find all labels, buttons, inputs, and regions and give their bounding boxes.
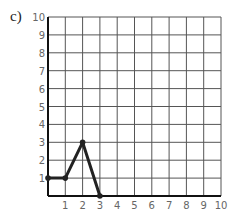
- x-tick-label: 4: [114, 200, 120, 211]
- y-tick-label: 4: [39, 119, 45, 130]
- data-line: [48, 142, 100, 196]
- y-tick-label: 1: [39, 173, 45, 184]
- y-tick-label: 9: [39, 30, 45, 41]
- x-tick-label: 9: [201, 200, 207, 211]
- x-tick-label: 2: [79, 200, 85, 211]
- x-tick-label: 5: [131, 200, 137, 211]
- data-point-marker: [97, 193, 103, 199]
- y-tick-label: 5: [39, 102, 45, 113]
- y-tick-label: 8: [39, 48, 45, 59]
- data-point-marker: [45, 175, 51, 181]
- y-tick-label: 7: [39, 66, 45, 77]
- data-point-marker: [80, 140, 86, 146]
- y-tick-label: 10: [32, 12, 45, 23]
- y-tick-label: 3: [39, 137, 45, 148]
- x-tick-label: 1: [62, 200, 68, 211]
- data-point-marker: [63, 175, 69, 181]
- x-tick-label: 8: [183, 200, 189, 211]
- line-chart: 1234567891012345678910: [0, 0, 235, 218]
- x-tick-label: 6: [149, 200, 155, 211]
- y-tick-label: 6: [39, 84, 45, 95]
- y-tick-label: 2: [39, 155, 45, 166]
- x-tick-label: 10: [215, 200, 228, 211]
- x-tick-label: 3: [97, 200, 103, 211]
- x-tick-label: 7: [166, 200, 172, 211]
